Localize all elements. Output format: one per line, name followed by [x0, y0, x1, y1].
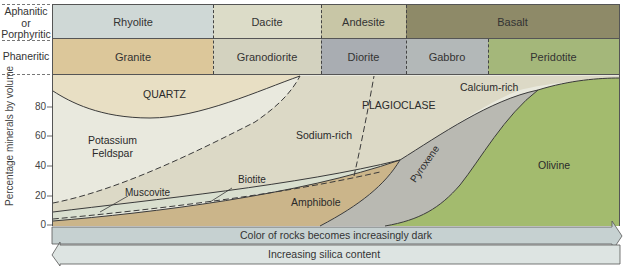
label-quartz: QUARTZ [143, 88, 186, 100]
label-olivine: Olivine [538, 159, 570, 171]
label-potassium-feldspar: Potassium Feldspar [88, 134, 137, 160]
label-feldspar: Feldspar [88, 147, 137, 160]
label-potassium: Potassium [88, 134, 137, 147]
label-sodium-rich: Sodium-rich [296, 129, 352, 141]
label-muscovite: Muscovite [125, 187, 170, 198]
label-calcium-rich: Calcium-rich [460, 81, 518, 93]
silica-arrow-label: Increasing silica content [268, 248, 380, 260]
label-plagioclase: PLAGIOCLASE [362, 99, 436, 111]
label-amphibole: Amphibole [291, 196, 341, 208]
label-biotite: Biotite [238, 174, 266, 185]
color-arrow-label: Color of rocks becomes increasingly dark [240, 229, 432, 241]
